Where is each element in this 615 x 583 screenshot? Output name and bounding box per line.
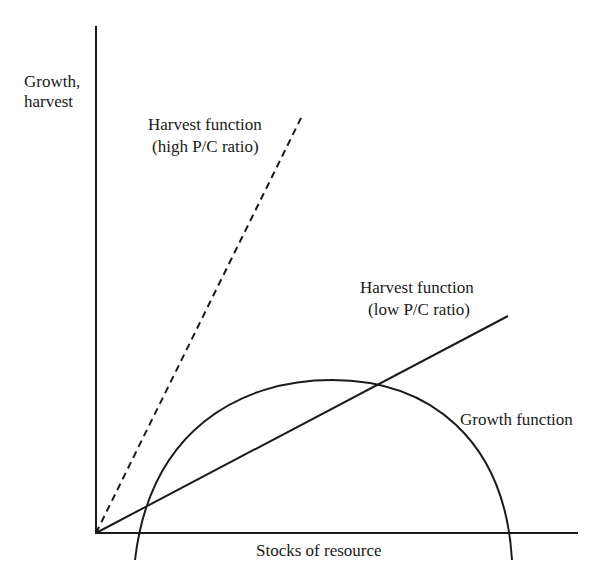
y-axis-label-line2: harvest bbox=[24, 92, 73, 112]
low-harvest-label-line2: (low P/C ratio) bbox=[368, 300, 470, 320]
harvest-low-pc-line bbox=[96, 316, 508, 533]
low-harvest-label-line1: Harvest function bbox=[360, 278, 474, 298]
diagram: Growth, harvest Harvest function (high P… bbox=[0, 0, 615, 583]
diagram-canvas bbox=[0, 0, 615, 583]
x-axis-label: Stocks of resource bbox=[256, 541, 382, 561]
high-harvest-label-line1: Harvest function bbox=[148, 115, 262, 135]
origin-point bbox=[95, 530, 99, 534]
y-axis-label-line1: Growth, bbox=[24, 72, 80, 92]
high-harvest-label-line2: (high P/C ratio) bbox=[152, 137, 259, 157]
harvest-high-pc-line bbox=[96, 114, 303, 533]
growth-function-label: Growth function bbox=[460, 410, 573, 430]
